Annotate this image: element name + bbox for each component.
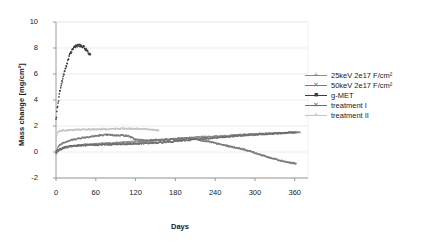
y-tick-label: -2 [12, 173, 38, 182]
legend-marker-icon: + [305, 111, 327, 120]
y-axis-tick-labels: 1086420-2 [8, 0, 38, 243]
plot-area [0, 0, 441, 243]
x-axis-title: Days [55, 222, 305, 231]
legend-item-0[interactable]: +25keV 2e17 F/cm² [305, 70, 439, 80]
x-tick-label: 60 [81, 188, 111, 197]
y-tick-label: 0 [12, 147, 38, 156]
chart-figure: Mass change [mg/cm²] Days 1086420-2 0601… [0, 0, 441, 243]
legend-item-label: 50keV 2e17 F/cm² [327, 81, 392, 90]
y-tick-label: 2 [12, 121, 38, 130]
y-tick-label: 6 [12, 69, 38, 78]
legend-item-label: treatment II [327, 111, 369, 120]
legend-marker-icon: ✕ [305, 81, 327, 90]
legend-item-4[interactable]: +treatment II [305, 110, 439, 120]
legend-marker-icon: ✕ [305, 101, 327, 110]
legend-item-1[interactable]: ✕50keV 2e17 F/cm² [305, 80, 439, 90]
legend-marker-icon: ■ [305, 91, 327, 100]
x-tick-label: 360 [280, 188, 310, 197]
legend-item-label: g-MET [327, 91, 354, 100]
legend-item-label: 25keV 2e17 F/cm² [327, 71, 392, 80]
legend-marker-icon: + [305, 71, 327, 80]
y-tick-label: 8 [12, 43, 38, 52]
chart-legend: +25keV 2e17 F/cm²✕50keV 2e17 F/cm²■g-MET… [305, 70, 439, 120]
x-tick-label: 0 [41, 188, 71, 197]
y-tick-label: 10 [12, 17, 38, 26]
x-tick-label: 180 [160, 188, 190, 197]
y-tick-label: 4 [12, 95, 38, 104]
legend-item-label: treatment I [327, 101, 367, 110]
x-tick-label: 300 [240, 188, 270, 197]
legend-item-3[interactable]: ✕treatment I [305, 100, 439, 110]
x-tick-label: 120 [121, 188, 151, 197]
legend-item-2[interactable]: ■g-MET [305, 90, 439, 100]
x-tick-label: 240 [200, 188, 230, 197]
